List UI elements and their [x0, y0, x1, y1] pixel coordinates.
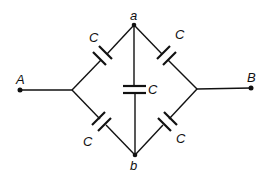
capacitor-lower-right [135, 89, 197, 155]
node-b-dot [133, 153, 138, 158]
label-a: a [130, 8, 137, 23]
label-c-lower-left: C [83, 134, 93, 149]
capacitor-upper-right [134, 25, 197, 89]
circuit-diagram: A B a b C C C C C [0, 0, 265, 180]
terminal-B [197, 86, 254, 91]
label-B: B [247, 70, 256, 85]
terminal-A [18, 88, 73, 93]
label-c-lower-right: C [176, 131, 186, 146]
capacitor-upper-left [72, 25, 134, 90]
node-a-dot [132, 23, 137, 28]
label-c-upper-right: C [175, 27, 185, 42]
label-b: b [130, 158, 137, 173]
capacitor-lower-left [72, 90, 135, 155]
label-c-center: C [148, 82, 158, 97]
capacitor-center [123, 25, 146, 155]
label-A: A [15, 72, 25, 87]
label-c-upper-left: C [89, 30, 99, 45]
